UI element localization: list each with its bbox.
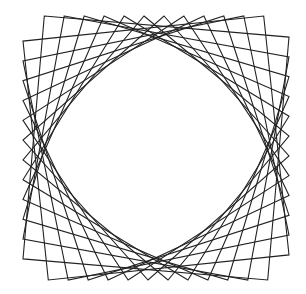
squares-group xyxy=(23,16,289,280)
square-8 xyxy=(23,16,289,280)
square-5 xyxy=(23,16,289,280)
square-10 xyxy=(23,16,289,280)
square-0 xyxy=(23,16,289,280)
square-11 xyxy=(23,16,289,280)
square-4 xyxy=(23,16,289,280)
square-1 xyxy=(23,16,289,280)
square-9 xyxy=(23,16,289,280)
square-2 xyxy=(23,16,289,280)
square-6 xyxy=(23,16,289,280)
square-3 xyxy=(23,16,289,280)
rotated-squares-drawing xyxy=(0,0,306,294)
square-7 xyxy=(23,16,289,280)
